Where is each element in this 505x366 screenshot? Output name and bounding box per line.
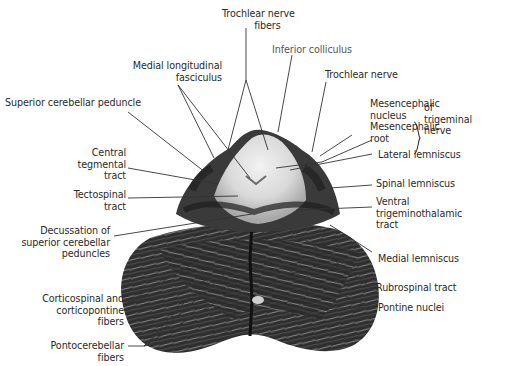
label-superior-cerebellar-peduncle: Superior cerebellar peduncle [5, 97, 141, 109]
label-medial-longitudinal-fasciculus: Medial longitudinal fasciculus [130, 60, 222, 83]
label-inferior-colliculus: Inferior colliculus [272, 44, 352, 56]
label-of-trigeminal-nerve: of trigeminal nerve [424, 102, 472, 137]
brainstem-section-figure: Trochlear nerve fibers Inferior collicul… [0, 0, 505, 366]
label-pontocerebellar-fibers: Pontocerebellar fibers [30, 340, 124, 363]
label-corticospinal-corticopontine-fibers: Corticospinal and corticopontine fibers [20, 293, 124, 328]
label-pontine-nuclei: Pontine nuclei [378, 302, 444, 314]
label-trochlear-nerve: Trochlear nerve [325, 69, 398, 81]
label-tectospinal-tract: Tectospinal tract [40, 189, 126, 212]
label-rubrospinal-tract: Rubrospinal tract [376, 282, 456, 294]
label-ventral-trigeminothalamic-tract: Ventral trigeminothalamic tract [376, 196, 462, 231]
label-lateral-lemniscus: Lateral lemniscus [378, 149, 461, 161]
label-spinal-lemniscus: Spinal lemniscus [376, 178, 455, 190]
label-medial-lemniscus: Medial lemniscus [378, 253, 459, 265]
label-central-tegmental-tract: Central tegmental tract [40, 147, 126, 182]
basis-pontis [121, 222, 379, 353]
label-trochlear-nerve-fibers: Trochlear nerve fibers [222, 8, 295, 31]
label-decussation-superior-cerebellar-peduncles: Decussation of superior cerebellar pedun… [10, 225, 110, 260]
